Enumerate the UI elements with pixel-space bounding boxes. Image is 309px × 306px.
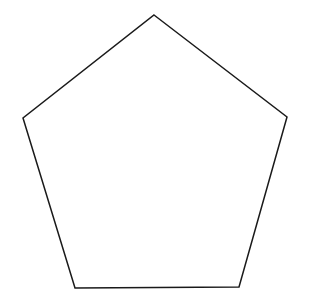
pentagon-diagram xyxy=(0,0,309,306)
diagram-canvas xyxy=(0,0,309,306)
pentagon-shape xyxy=(23,15,287,288)
